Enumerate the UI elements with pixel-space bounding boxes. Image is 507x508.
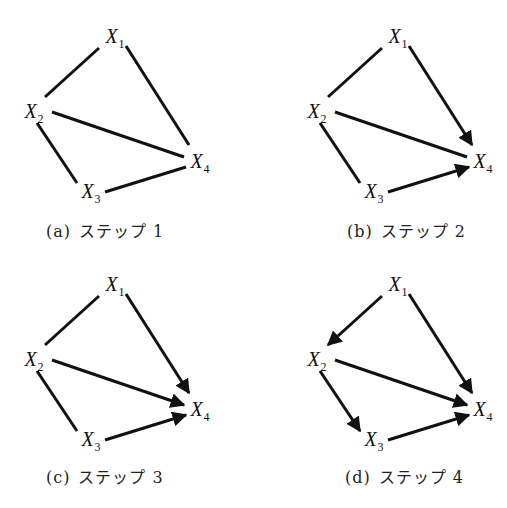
caption-text: ステップ bbox=[78, 468, 146, 487]
node-subscript: 1 bbox=[119, 37, 125, 51]
edge-x2-x3 bbox=[37, 123, 77, 183]
node-subscript: 3 bbox=[378, 440, 384, 454]
node-subscript: 3 bbox=[378, 192, 384, 206]
node-x4: X4 bbox=[190, 151, 209, 174]
node-subscript: 4 bbox=[487, 162, 493, 176]
caption-tag: (a) bbox=[46, 222, 71, 241]
panel-step-2: X1 X2 X3 X4 (b)ステップ2 bbox=[283, 0, 507, 254]
edge-x3-x4-directed bbox=[388, 415, 469, 440]
edge-x3-x4-directed bbox=[105, 415, 186, 440]
caption-tag: (d) bbox=[345, 468, 371, 487]
node-subscript: 3 bbox=[95, 192, 101, 206]
node-subscript: 1 bbox=[119, 285, 125, 299]
edge-x1-x2 bbox=[328, 48, 382, 97]
node-x3: X3 bbox=[364, 181, 383, 204]
caption-step-number: 2 bbox=[455, 222, 466, 241]
node-subscript: 2 bbox=[38, 112, 44, 126]
node-subscript: 3 bbox=[95, 440, 101, 454]
caption-text: ステップ bbox=[381, 222, 449, 241]
node-subscript: 4 bbox=[204, 162, 210, 176]
edge-x2-x3-directed bbox=[320, 371, 360, 431]
node-name: X bbox=[307, 348, 319, 370]
node-subscript: 2 bbox=[321, 360, 327, 374]
caption-text: ステップ bbox=[379, 468, 447, 487]
node-x2: X2 bbox=[24, 349, 43, 372]
node-x1: X1 bbox=[388, 26, 407, 49]
caption-step-number: 4 bbox=[453, 468, 464, 487]
node-subscript: 1 bbox=[402, 285, 408, 299]
edge-x1-x2 bbox=[45, 48, 99, 97]
panel-step-1: X1 X2 X3 X4 (a)ステップ1 bbox=[0, 0, 253, 254]
node-x3: X3 bbox=[364, 429, 383, 452]
node-subscript: 2 bbox=[321, 112, 327, 126]
edge-x1-x4-directed bbox=[409, 46, 472, 145]
node-x3: X3 bbox=[81, 181, 100, 204]
node-name: X bbox=[388, 25, 400, 47]
edge-x1-x2 bbox=[45, 296, 99, 345]
node-x2: X2 bbox=[24, 101, 43, 124]
node-name: X bbox=[364, 180, 376, 202]
edge-x2-x4 bbox=[335, 112, 467, 157]
node-x2: X2 bbox=[307, 101, 326, 124]
node-subscript: 2 bbox=[38, 360, 44, 374]
node-name: X bbox=[190, 398, 202, 420]
panel-step-3: X1 X2 X3 X4 (c)ステップ3 bbox=[0, 248, 253, 502]
edge-x2-x4 bbox=[52, 112, 184, 157]
node-x1: X1 bbox=[105, 26, 124, 49]
node-name: X bbox=[81, 428, 93, 450]
caption-step-3: (c)ステップ3 bbox=[46, 468, 164, 488]
edge-x3-x4-directed bbox=[388, 167, 469, 192]
caption-tag: (b) bbox=[347, 222, 373, 241]
node-name: X bbox=[388, 273, 400, 295]
node-name: X bbox=[24, 100, 36, 122]
caption-step-1: (a)ステップ1 bbox=[46, 222, 164, 242]
node-name: X bbox=[190, 150, 202, 172]
node-subscript: 4 bbox=[204, 410, 210, 424]
edge-x1-x2-directed bbox=[328, 296, 382, 345]
node-name: X bbox=[81, 180, 93, 202]
graph-step-3 bbox=[0, 248, 253, 502]
caption-tag: (c) bbox=[46, 468, 70, 487]
caption-step-2: (b)ステップ2 bbox=[347, 222, 466, 242]
node-name: X bbox=[105, 25, 117, 47]
edge-x1-x4-directed bbox=[409, 294, 472, 393]
node-x4: X4 bbox=[190, 399, 209, 422]
caption-step-4: (d)ステップ4 bbox=[345, 468, 464, 488]
node-x3: X3 bbox=[81, 429, 100, 452]
node-x2: X2 bbox=[307, 349, 326, 372]
edge-x1-x4 bbox=[126, 46, 189, 145]
edge-x2-x4-directed bbox=[335, 360, 467, 405]
node-subscript: 1 bbox=[402, 37, 408, 51]
edge-x3-x4 bbox=[105, 167, 186, 192]
node-name: X bbox=[473, 150, 485, 172]
caption-step-number: 3 bbox=[152, 468, 163, 487]
edge-x1-x4-directed bbox=[126, 294, 189, 393]
node-x1: X1 bbox=[105, 274, 124, 297]
node-x4: X4 bbox=[473, 399, 492, 422]
edge-x2-x3 bbox=[37, 371, 77, 431]
node-x4: X4 bbox=[473, 151, 492, 174]
node-subscript: 4 bbox=[487, 410, 493, 424]
edge-x2-x3 bbox=[320, 123, 360, 183]
panel-step-4: X1 X2 X3 X4 (d)ステップ4 bbox=[283, 248, 507, 502]
node-name: X bbox=[364, 428, 376, 450]
edge-x2-x4-directed bbox=[52, 360, 184, 405]
caption-step-number: 1 bbox=[153, 222, 164, 241]
node-name: X bbox=[105, 273, 117, 295]
node-x1: X1 bbox=[388, 274, 407, 297]
node-name: X bbox=[307, 100, 319, 122]
node-name: X bbox=[24, 348, 36, 370]
node-name: X bbox=[473, 398, 485, 420]
caption-text: ステップ bbox=[79, 222, 147, 241]
graph-step-1 bbox=[0, 0, 253, 254]
